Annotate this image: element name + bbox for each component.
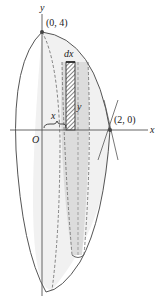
height-y-label: y <box>76 101 82 112</box>
y-axis-label: y <box>39 2 45 13</box>
radius-x-label: x <box>50 110 56 121</box>
point-label-0-4: (0, 4) <box>46 17 68 29</box>
point-2-0 <box>108 128 112 132</box>
point-label-2-0: (2, 0) <box>114 114 136 126</box>
shell-method-diagram: y x O (0, 4) (2, 0) dx y x <box>0 0 160 298</box>
dx-label: dx <box>64 48 74 59</box>
point-0-4 <box>40 30 44 34</box>
x-axis-label: x <box>149 124 155 135</box>
origin-label: O <box>32 134 39 145</box>
hatched-strip <box>66 62 75 130</box>
